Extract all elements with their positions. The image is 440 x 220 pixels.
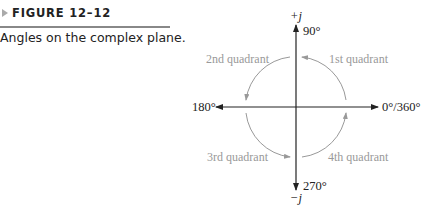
first-quadrant-label: 1st quadrant xyxy=(329,52,389,66)
second-quadrant-label: 2nd quadrant xyxy=(206,52,270,66)
angle-180-label: 180° xyxy=(192,100,216,114)
fourth-quadrant-label: 4th quadrant xyxy=(328,150,389,164)
negative-imaginary-label: −j xyxy=(290,191,302,205)
angle-90-label: 90° xyxy=(303,24,321,38)
complex-plane-diagram: +j 90° 180° 0°/360° 270° −j 1st quadrant… xyxy=(0,0,440,220)
third-quadrant-label: 3rd quadrant xyxy=(207,150,269,164)
angle-0-360-label: 0°/360° xyxy=(382,100,420,114)
angle-270-label: 270° xyxy=(303,179,327,193)
positive-imaginary-label: +j xyxy=(290,9,302,23)
